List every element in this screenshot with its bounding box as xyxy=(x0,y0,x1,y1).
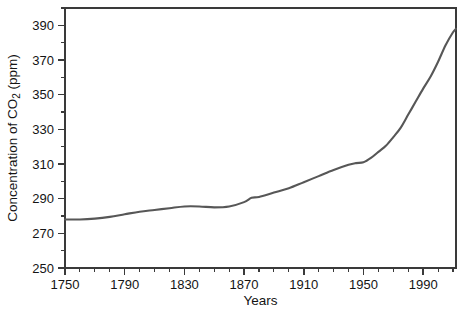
y-tick-label: 290 xyxy=(32,191,54,206)
y-tick-label: 270 xyxy=(32,226,54,241)
y-tick-label: 310 xyxy=(32,157,54,172)
data-series-group xyxy=(65,29,456,220)
y-tick-label: 250 xyxy=(32,261,54,276)
x-axis-title: Years xyxy=(243,293,277,308)
x-axis-tick-labels: 1750179018301870191019501990 xyxy=(51,277,438,292)
plot-frame xyxy=(65,8,456,268)
x-tick-label: 1950 xyxy=(349,277,378,292)
co2-concentration-chart: 250270290310330350370390 175017901830187… xyxy=(0,0,470,318)
x-tick-label: 1990 xyxy=(409,277,438,292)
x-tick-label: 1910 xyxy=(289,277,318,292)
y-tick-label: 350 xyxy=(32,87,54,102)
data-series-line xyxy=(65,29,456,220)
y-axis-title-suffix: (ppm) xyxy=(5,54,20,93)
axis-frame-path xyxy=(65,8,456,268)
x-tick-label: 1830 xyxy=(170,277,199,292)
chart-canvas: 250270290310330350370390 175017901830187… xyxy=(0,0,470,318)
x-tick-label: 1750 xyxy=(51,277,80,292)
x-tick-label: 1790 xyxy=(110,277,139,292)
y-axis-title-group: Concentration of CO2 (ppm) xyxy=(5,54,22,222)
y-tick-label: 390 xyxy=(32,18,54,33)
y-axis-title-prefix: Concentration of CO xyxy=(5,99,20,222)
y-axis-tick-labels: 250270290310330350370390 xyxy=(32,18,54,276)
y-axis-ticks xyxy=(58,8,65,268)
y-axis-title: Concentration of CO2 (ppm) xyxy=(5,54,22,222)
x-tick-label: 1870 xyxy=(230,277,259,292)
y-tick-label: 370 xyxy=(32,53,54,68)
x-axis-ticks xyxy=(65,268,453,275)
y-tick-label: 330 xyxy=(32,122,54,137)
